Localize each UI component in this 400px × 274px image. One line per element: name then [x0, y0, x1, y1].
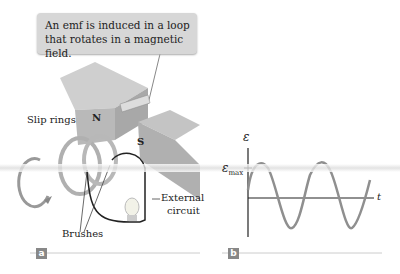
emf-axis-label: ε — [243, 130, 249, 144]
callout-line-2: that rotates in a magnetic field. — [45, 32, 197, 60]
external-label-2: circuit — [167, 205, 200, 216]
gray-band — [0, 164, 400, 172]
south-label: S — [137, 136, 144, 147]
slip-rings-label: Slip rings — [27, 114, 76, 125]
callout-box: An emf is induced in a loop that rotates… — [37, 13, 197, 54]
callout-line-1: An emf is induced in a loop — [45, 18, 197, 32]
figure: An emf is induced in a loop that rotates… — [0, 0, 400, 274]
time-axis-label: t — [377, 191, 381, 202]
external-label-1: External — [161, 192, 204, 203]
brushes-label: Brushes — [62, 228, 103, 239]
panel-a-tag: a — [36, 248, 47, 259]
emax-label: εmax — [222, 161, 243, 177]
panel-b-tag: b — [228, 248, 239, 259]
north-label: N — [92, 112, 101, 123]
